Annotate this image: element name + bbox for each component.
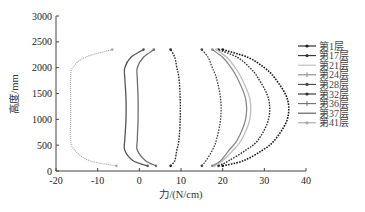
axes: -20-10010203040 050010001500200025003000… [8,11,311,202]
legend-label: 第41层 [319,116,349,128]
x-tick-label: 20 [218,175,228,186]
y-tick-label: 1000 [32,114,52,125]
legend-marker-icon [305,44,308,47]
legend-marker-icon [305,121,308,124]
legend-marker-icon [305,92,308,95]
series-line [169,48,180,167]
y-tick-label: 0 [47,166,52,177]
series-line [137,48,158,167]
series-line [221,48,288,167]
legend-marker-icon [305,83,308,86]
x-axis-label: 力/(N/cm) [159,188,203,201]
legend-marker-icon [305,54,308,57]
x-tick-label: -10 [91,175,104,186]
legend-item: 第41层 [298,116,349,128]
y-tick-label: 3000 [32,11,52,22]
series-line [213,48,251,167]
x-tick-label: 40 [301,175,311,186]
x-tick-label: -20 [49,175,62,186]
y-tick-label: 2000 [32,62,52,73]
series-line [211,48,247,167]
legend: 第1层第17层第21层第24层第28层第32层第36层第37层第41层 [298,40,349,129]
y-ticks: 050010001500200025003000 [32,11,59,177]
x-tick-label: 30 [259,175,269,186]
y-tick-label: 2500 [32,36,52,47]
y-axis-label: 高度/mm [8,74,20,113]
force-height-chart: -20-10010203040 050010001500200025003000… [0,0,365,212]
series-line [70,48,117,167]
series-layer [70,48,289,167]
y-tick-label: 500 [37,140,52,151]
x-tick-label: 0 [137,175,142,186]
series-line [201,48,222,167]
x-tick-label: 10 [176,175,186,186]
y-tick-label: 1500 [32,88,52,99]
